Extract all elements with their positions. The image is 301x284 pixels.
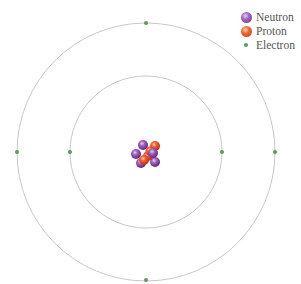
electron	[144, 278, 148, 282]
neutron	[148, 148, 158, 158]
legend-item-electron: Electron	[238, 38, 295, 52]
legend-label: Proton	[256, 24, 287, 38]
legend-item-proton: Proton	[238, 24, 295, 38]
legend-label: Neutron	[256, 10, 294, 24]
electron-icon	[244, 43, 248, 47]
proton	[139, 155, 149, 165]
electron	[273, 150, 277, 154]
nucleus	[131, 140, 160, 168]
neutron-icon	[241, 12, 252, 23]
electron	[220, 150, 224, 154]
proton-icon	[241, 26, 252, 37]
electron	[15, 150, 19, 154]
electron	[144, 21, 148, 25]
legend-item-neutron: Neutron	[238, 10, 295, 24]
legend: Neutron Proton Electron	[238, 10, 295, 52]
electron	[68, 150, 72, 154]
legend-label: Electron	[256, 38, 295, 52]
neutron	[131, 149, 141, 159]
